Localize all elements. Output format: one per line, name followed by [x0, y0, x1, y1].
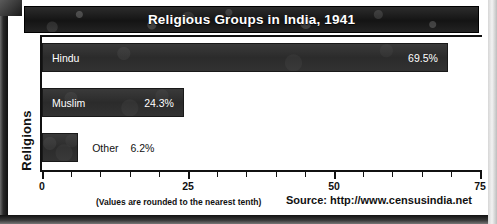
bar-label-muslim: Muslim	[52, 97, 85, 109]
bar-muslim[interactable]: Muslim 24.3%	[42, 88, 184, 117]
x-tick-75	[480, 172, 482, 179]
x-tick-0	[42, 172, 44, 179]
frame-edge-top	[0, 0, 497, 5]
x-tick-50	[334, 172, 336, 179]
bar-value-hindu: 69.5%	[408, 52, 438, 64]
x-tick-20	[159, 172, 160, 177]
x-tick-25	[188, 172, 190, 179]
x-tick-45	[305, 172, 306, 177]
x-tick-40	[276, 172, 277, 177]
x-tick-15	[130, 172, 131, 177]
x-tick-label-25: 25	[182, 180, 194, 192]
bar-label-group-other: Other 6.2%	[92, 133, 154, 162]
frame-edge-right	[488, 0, 497, 224]
bar-value-other: 6.2%	[130, 142, 154, 154]
frame-edge-bottom	[0, 215, 497, 224]
y-axis-label: Religions	[16, 85, 36, 195]
y-axis-label-text: Religions	[19, 110, 34, 170]
chart-frame: Religious Groups in India, 1941 Religion…	[0, 0, 497, 224]
x-tick-35	[246, 172, 247, 177]
x-tick-30	[217, 172, 218, 177]
bar-label-other: Other	[92, 142, 118, 154]
x-tick-65	[422, 172, 423, 177]
x-tick-60	[392, 172, 393, 177]
x-tick-label-0: 0	[39, 180, 45, 192]
frame-edge-left	[0, 0, 8, 224]
x-tick-10	[100, 172, 101, 177]
chart-plot-area: Religions Hindu 69.5% Muslim 24.3% Other…	[10, 33, 488, 215]
chart-title: Religious Groups in India, 1941	[148, 12, 355, 27]
x-tick-label-75: 75	[474, 180, 486, 192]
x-tick-label-50: 50	[328, 180, 340, 192]
frame-corner-tab	[0, 0, 22, 16]
bar-hindu[interactable]: Hindu 69.5%	[42, 43, 448, 72]
x-tick-55	[363, 172, 364, 177]
plot-border-top	[40, 35, 482, 37]
chart-note: (Values are rounded to the nearest tenth…	[96, 197, 261, 207]
bar-other[interactable]	[42, 133, 78, 162]
bar-value-muslim: 24.3%	[144, 97, 174, 109]
chart-title-bar: Religious Groups in India, 1941	[24, 6, 479, 33]
x-tick-70	[451, 172, 452, 177]
x-axis-line	[40, 170, 482, 172]
bar-label-hindu: Hindu	[52, 52, 79, 64]
chart-source: Source: http://www.censusindia.net	[286, 194, 472, 206]
bars-container: Hindu 69.5% Muslim 24.3% Other 6.2%	[40, 35, 482, 170]
x-tick-5	[71, 172, 72, 177]
